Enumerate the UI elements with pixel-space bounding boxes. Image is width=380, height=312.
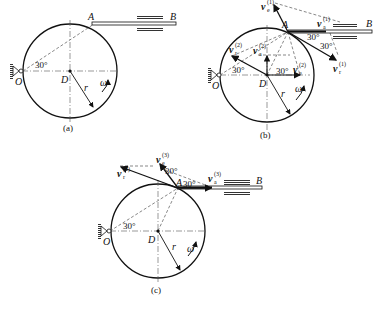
label-r: r bbox=[84, 82, 88, 93]
label-r: r bbox=[172, 241, 176, 252]
angle-label-A1: 30° bbox=[165, 166, 178, 176]
svg-text:v: v bbox=[117, 168, 122, 179]
kinematics-figure: A B O D r ω 30° (a) bbox=[0, 0, 380, 312]
svg-text:(2): (2) bbox=[235, 42, 242, 49]
label-D: D bbox=[60, 74, 69, 85]
vector-label-va3: v a (3) bbox=[208, 171, 221, 185]
guide-top bbox=[224, 180, 250, 185]
vector-label-vr3: v r (3) bbox=[117, 166, 130, 180]
line-OA bbox=[110, 188, 178, 231]
vector-label-vr2: v r (2) bbox=[229, 42, 242, 56]
svg-text:v: v bbox=[333, 63, 338, 74]
angle-label-D: 30° bbox=[276, 66, 289, 76]
svg-text:a: a bbox=[323, 24, 326, 30]
line-OA bbox=[23, 24, 94, 71]
svg-text:r: r bbox=[235, 50, 237, 56]
label-omega: ω bbox=[295, 83, 302, 94]
label-O: O bbox=[103, 236, 110, 247]
angle-label: 30° bbox=[35, 60, 48, 70]
svg-text:v: v bbox=[229, 44, 234, 55]
svg-text:(3): (3) bbox=[162, 152, 169, 159]
label-r: r bbox=[281, 88, 285, 99]
angle-label-A1: 30° bbox=[307, 32, 320, 42]
svg-text:v: v bbox=[156, 154, 161, 165]
svg-text:(1): (1) bbox=[323, 16, 330, 23]
label-B: B bbox=[366, 18, 372, 29]
label-omega: ω bbox=[187, 243, 194, 254]
panel-a: A B O D r ω 30° (a) bbox=[10, 11, 176, 133]
guide-top bbox=[333, 23, 357, 28]
radius-r bbox=[158, 231, 180, 270]
angle-label-O: 30° bbox=[123, 221, 136, 231]
vector-label-ve3: v e (3) bbox=[156, 152, 169, 166]
svg-text:v: v bbox=[253, 45, 258, 56]
svg-text:(1): (1) bbox=[339, 61, 346, 68]
label-A: A bbox=[87, 11, 95, 22]
svg-text:r: r bbox=[339, 69, 341, 75]
svg-text:e: e bbox=[267, 7, 270, 13]
svg-text:v: v bbox=[293, 64, 298, 75]
rod-AB bbox=[92, 22, 176, 25]
radius-r bbox=[70, 71, 93, 107]
guide-bottom bbox=[137, 27, 163, 32]
svg-text:e: e bbox=[162, 160, 165, 166]
angle-label-A2: 30° bbox=[183, 179, 196, 189]
svg-text:a: a bbox=[259, 51, 262, 57]
line-DA bbox=[158, 188, 178, 231]
vector-label-ve1: v e (1) bbox=[261, 0, 274, 13]
guide-bottom bbox=[333, 35, 357, 40]
angle-label-O: 30° bbox=[232, 65, 245, 75]
caption-a: (a) bbox=[63, 123, 73, 133]
svg-text:(2): (2) bbox=[299, 62, 306, 69]
svg-text:e: e bbox=[299, 70, 302, 76]
panel-c: A B O D r ω 30° 30° 30° v r (3) v e (3) … bbox=[98, 152, 262, 295]
svg-text:v: v bbox=[208, 173, 213, 184]
svg-text:(3): (3) bbox=[214, 171, 221, 178]
svg-text:r: r bbox=[123, 174, 125, 180]
label-omega: ω bbox=[100, 77, 107, 88]
svg-text:a: a bbox=[214, 179, 217, 185]
svg-text:v: v bbox=[261, 1, 266, 12]
vector-label-vr1: v r (1) bbox=[333, 61, 346, 75]
radius-r bbox=[267, 75, 290, 114]
label-A: A bbox=[175, 177, 183, 188]
vector-label-va1: v a (1) bbox=[317, 16, 330, 30]
label-D: D bbox=[258, 78, 267, 89]
label-A: A bbox=[281, 19, 289, 30]
vector-label-ve2: v e (2) bbox=[293, 62, 306, 76]
label-B: B bbox=[256, 175, 262, 186]
svg-text:v: v bbox=[317, 18, 322, 29]
label-O: O bbox=[212, 80, 219, 91]
caption-b: (b) bbox=[260, 130, 271, 140]
svg-text:(2): (2) bbox=[259, 43, 266, 50]
panel-b: A B O D r ω 30° 30° 30° 30° v e (1) v a … bbox=[208, 0, 372, 140]
guide-top bbox=[137, 15, 163, 20]
label-B: B bbox=[170, 11, 176, 22]
label-D: D bbox=[147, 234, 156, 245]
svg-text:(1): (1) bbox=[267, 0, 274, 6]
svg-text:(3): (3) bbox=[123, 166, 130, 173]
guide-bottom bbox=[224, 191, 250, 196]
label-O: O bbox=[15, 76, 22, 87]
caption-c: (c) bbox=[151, 285, 161, 295]
angle-label-A2: 30° bbox=[320, 41, 333, 51]
